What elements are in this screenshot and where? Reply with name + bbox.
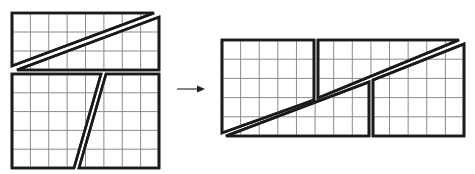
diagram-canvas <box>0 0 475 174</box>
dissection-diagram <box>0 0 475 174</box>
transform-arrow-icon <box>177 86 205 93</box>
rearranged-figure <box>222 40 464 136</box>
original-figure <box>12 13 159 168</box>
